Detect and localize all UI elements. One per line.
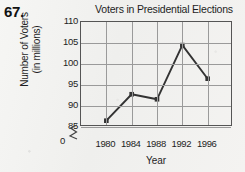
worksheet-page: 67. Voters in Presidential Elections Num…	[0, 0, 245, 172]
x-axis-tick-label: 1980	[96, 139, 116, 149]
y-axis-tick-label: 105	[52, 37, 78, 47]
y-axis-tick-label: 100	[52, 58, 78, 68]
x-axis-tick-label: 1984	[121, 139, 141, 149]
axis-break-icon	[66, 124, 80, 140]
x-axis-tick-label: 1988	[146, 139, 166, 149]
y-axis-title: Number of Voters (in millions)	[19, 0, 42, 106]
y-axis-title-line-2: (in millions)	[30, 0, 42, 106]
gridline-vertical	[106, 22, 107, 125]
x-axis-tick-labels: 19801984198819921996	[80, 139, 232, 151]
y-axis-title-line-1: Number of Voters	[19, 0, 31, 106]
gridline-vertical	[208, 22, 209, 125]
gridline-horizontal	[81, 127, 231, 128]
plot-area	[80, 21, 232, 126]
x-axis-title: Year	[80, 155, 232, 166]
y-axis-tick-label: 110	[52, 16, 78, 26]
gridline-vertical	[157, 22, 158, 125]
gridline-vertical	[182, 22, 183, 125]
y-axis-zero-label: 0	[60, 135, 65, 146]
x-axis-tick-label: 1992	[172, 139, 192, 149]
x-axis-tick-label: 1996	[197, 139, 217, 149]
y-axis-tick-label: 90	[52, 100, 78, 110]
gridline-vertical	[132, 22, 133, 125]
y-axis-tick-labels: 110105100959085	[52, 21, 78, 126]
chart-title: Voters in Presidential Elections	[84, 3, 244, 15]
y-axis-tick-label: 95	[52, 79, 78, 89]
